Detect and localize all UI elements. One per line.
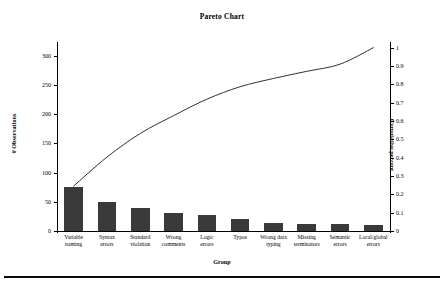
bar	[331, 224, 350, 231]
y-axis-left-tick-label: 300	[29, 53, 51, 59]
pareto-chart-page: Pareto Chart # Observations Cumulative p…	[0, 0, 444, 285]
y-axis-right-tick-label: 0.9	[396, 63, 420, 69]
y-axis-left-tick	[54, 231, 57, 232]
y-axis-right-tick	[391, 66, 394, 67]
x-axis-category-label-line: errors	[187, 241, 226, 248]
x-axis-category-label: Local/globalerrors	[354, 234, 393, 249]
page-title: Pareto Chart	[0, 12, 444, 21]
y-axis-left-tick-label: 100	[29, 170, 51, 176]
y-axis-left-tick-label: 250	[29, 82, 51, 88]
y-axis-right-tick	[391, 121, 394, 122]
y-axis-left-tick-label: 200	[29, 111, 51, 117]
x-axis-category-label-line: errors	[354, 241, 393, 248]
y-axis-right-tick-label: 0.6	[396, 118, 420, 124]
y-axis-right-tick	[391, 213, 394, 214]
bar	[64, 187, 83, 231]
y-axis-right-tick	[391, 158, 394, 159]
x-axis-title: Group	[0, 258, 444, 265]
bar	[297, 224, 316, 231]
bar	[264, 223, 283, 231]
y-axis-right-tick	[391, 176, 394, 177]
y-axis-right-tick-label: 0.4	[396, 155, 420, 161]
bar	[231, 219, 250, 231]
y-axis-right-tick-label: 0.2	[396, 191, 420, 197]
y-axis-right-tick	[391, 231, 394, 232]
bar	[98, 202, 117, 231]
y-axis-right-tick-label: 0.3	[396, 173, 420, 179]
y-axis-right-tick-label: 0.1	[396, 210, 420, 216]
y-axis-right-tick-label: 0.7	[396, 100, 420, 106]
y-axis-right-tick-label: 0.5	[396, 136, 420, 142]
y-axis-left-tick-label: 150	[29, 140, 51, 146]
y-axis-right-tick	[391, 103, 394, 104]
y-axis-right-title: Cumulative percent	[389, 108, 396, 182]
bar	[198, 215, 217, 231]
y-axis-right-tick	[391, 194, 394, 195]
y-axis-right-tick-label: 0	[396, 228, 420, 234]
y-axis-left-title: # Observations	[10, 99, 17, 169]
bottom-divider	[4, 276, 440, 278]
x-axis-category-label-line: Local/global	[354, 234, 393, 241]
y-axis-right-tick	[391, 48, 394, 49]
y-axis-right-tick	[391, 139, 394, 140]
bar	[164, 213, 183, 231]
bar	[364, 225, 383, 231]
y-axis-right-tick	[391, 84, 394, 85]
cumulative-percent-path	[74, 48, 374, 186]
y-axis-left-tick-label: 0	[29, 228, 51, 234]
bar	[131, 208, 150, 231]
y-axis-right-tick-label: 0.8	[396, 81, 420, 87]
y-axis-right-tick-label: 1	[396, 45, 420, 51]
y-axis-left-tick-label: 50	[29, 199, 51, 205]
x-axis-line	[57, 231, 391, 232]
